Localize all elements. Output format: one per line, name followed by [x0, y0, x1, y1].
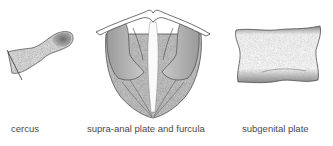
- label-supra-anal-plate-and-furcula: supra-anal plate and furcula: [87, 123, 205, 135]
- cercus-drawing: [7, 32, 73, 80]
- supra-anal-plate-drawing: [96, 10, 210, 118]
- label-subgenital-plate: subgenital plate: [242, 123, 309, 135]
- label-cercus: cercus: [11, 123, 39, 135]
- subgenital-plate-drawing: [236, 26, 321, 83]
